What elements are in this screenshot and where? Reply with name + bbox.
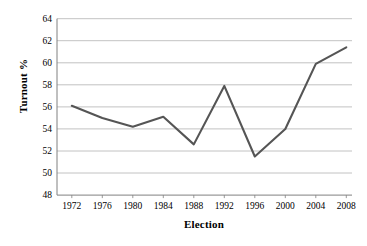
turnout-data-line <box>72 47 347 156</box>
x-tick-label-1976: 1976 <box>85 201 119 211</box>
x-tick-label-1988: 1988 <box>177 201 211 211</box>
x-tick-label-2000: 2000 <box>268 201 302 211</box>
x-tick-label-1984: 1984 <box>146 201 180 211</box>
y-tick-label-62: 62 <box>30 36 52 46</box>
y-tick-label-48: 48 <box>30 190 52 200</box>
x-tick-label-1980: 1980 <box>116 201 150 211</box>
y-tick-label-54: 54 <box>30 124 52 134</box>
x-axis-title: Election <box>56 218 352 230</box>
y-tick-label-64: 64 <box>30 14 52 24</box>
y-tick-label-56: 56 <box>30 102 52 112</box>
x-tick-label-1972: 1972 <box>55 201 89 211</box>
gridlines <box>57 19 352 173</box>
x-tick-label-1996: 1996 <box>238 201 272 211</box>
x-tick-label-2008: 2008 <box>329 201 363 211</box>
y-tick-label-60: 60 <box>30 58 52 68</box>
y-tick-label-52: 52 <box>30 146 52 156</box>
turnout-line-chart: Turnout % 64 62 60 5 <box>0 0 367 246</box>
x-tick-label-1992: 1992 <box>207 201 241 211</box>
x-tick-label-2004: 2004 <box>299 201 333 211</box>
y-tick-label-58: 58 <box>30 80 52 90</box>
y-tick-label-50: 50 <box>30 168 52 178</box>
